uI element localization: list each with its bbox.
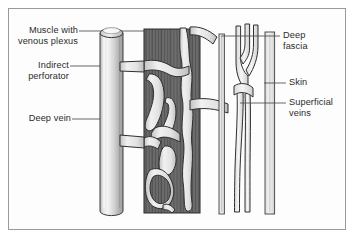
deep-vein-structure	[100, 28, 123, 216]
indirect-perforator-veins	[120, 61, 144, 148]
label-indirect-perforator: Indirect perforator	[14, 60, 69, 81]
deep-fascia-structure	[219, 34, 224, 214]
diagram-page: Muscle with venous plexus Indirect perfo…	[0, 0, 356, 240]
superficial-veins-structure	[234, 24, 258, 212]
label-deep-vein: Deep vein	[14, 113, 71, 124]
label-deep-fascia: Deep fascia	[283, 30, 341, 51]
label-skin: Skin	[289, 77, 339, 88]
label-superficial-veins: Superficial veins	[289, 97, 351, 118]
label-muscle-with-venous-plexus: Muscle with venous plexus	[14, 25, 78, 46]
skin-structure	[265, 32, 275, 214]
